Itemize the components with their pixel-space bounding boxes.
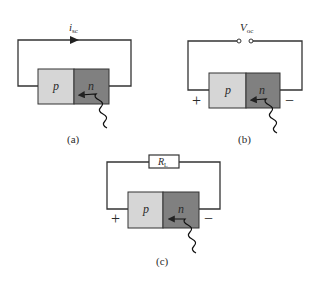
minus-sign: −: [204, 210, 213, 227]
n-label: n: [178, 202, 184, 216]
terminal-right-icon: [249, 39, 253, 43]
minus-sign: −: [285, 92, 294, 109]
plus-sign: +: [111, 210, 120, 227]
pn-junction-figure: isc p n (a) Voc p n + − (b) RL p n + − (: [0, 0, 318, 281]
n-label: n: [259, 83, 265, 97]
caption-a: (a): [67, 133, 80, 146]
panel-c-load: RL p n + − (c): [107, 155, 220, 268]
terminal-left-icon: [237, 39, 241, 43]
p-label: p: [52, 79, 59, 93]
plus-sign: +: [192, 92, 201, 109]
caption-b: (b): [238, 133, 251, 146]
p-label: p: [142, 202, 149, 216]
current-arrow-icon: [70, 36, 79, 44]
panel-a-short-circuit: isc p n (a): [18, 21, 131, 146]
voltage-label: Voc: [240, 21, 253, 35]
n-label: n: [88, 79, 94, 93]
p-label: p: [224, 83, 231, 97]
current-label: isc: [69, 21, 78, 35]
panel-b-open-circuit: Voc p n + − (b): [188, 21, 302, 146]
caption-c: (c): [156, 255, 169, 268]
